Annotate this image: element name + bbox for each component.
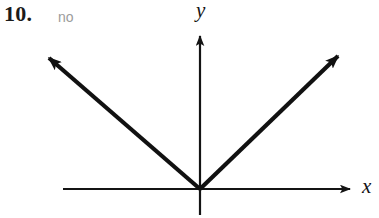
graph-canvas bbox=[0, 0, 379, 218]
figure-root: 10. no y x bbox=[0, 0, 379, 218]
x-axis-label: x bbox=[362, 176, 371, 197]
y-axis-label: y bbox=[196, 0, 205, 21]
absolute-value-left-ray bbox=[49, 58, 200, 189]
absolute-value-right-ray bbox=[200, 56, 338, 189]
